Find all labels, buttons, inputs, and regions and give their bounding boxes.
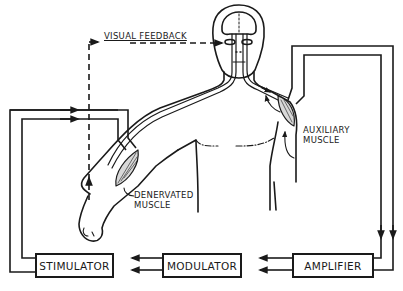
myoelectric-control-diagram	[0, 0, 403, 291]
modulator-block: MODULATOR	[162, 253, 242, 278]
auxiliary-muscle-label-line1: AUXILIARY	[303, 126, 350, 135]
amplifier-block: AMPLIFIER	[292, 253, 374, 278]
denervated-muscle-label-line2: MUSCLE	[134, 201, 171, 210]
auxiliary-muscle-label-line2: MUSCLE	[303, 136, 340, 145]
signal-wiring	[10, 46, 393, 272]
denervated-muscle-label-line1: DENERVATED	[134, 191, 194, 200]
eye-left-icon	[225, 40, 235, 45]
visual-feedback-label: VISUAL FEEDBACK	[104, 32, 187, 41]
stimulator-block: STIMULATOR	[35, 253, 114, 278]
